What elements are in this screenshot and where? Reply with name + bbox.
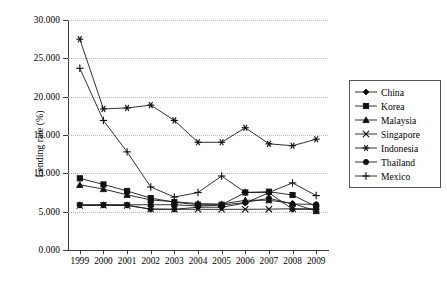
y-axis-tick-label: 15.000 (34, 130, 60, 140)
x-axis-tick (316, 250, 317, 254)
legend-item-thailand[interactable]: Thailand (354, 155, 435, 169)
circle-marker-icon (243, 200, 248, 205)
series-mexico (76, 65, 320, 201)
y-axis-tick-label: 30.000 (34, 15, 60, 25)
diamond-marker-icon (363, 89, 369, 95)
plot-area: 0.0005.00010.00015.00020.00025.00030.000… (68, 20, 328, 250)
x-axis-tick-label: 2001 (118, 256, 137, 266)
circle-marker-icon (363, 159, 368, 164)
series-layer (68, 20, 328, 250)
legend-item-korea[interactable]: Korea (354, 99, 435, 113)
x-axis-tick (151, 250, 152, 254)
plus-marker-icon (76, 65, 83, 72)
x-axis-tick-label: 2009 (307, 256, 326, 266)
y-axis-tick-label: 5.000 (39, 207, 60, 217)
plus-marker-icon (354, 169, 378, 183)
asterisk-marker-icon (354, 141, 378, 155)
x-axis-tick-label: 2006 (236, 256, 255, 266)
plus-marker-icon (147, 183, 154, 190)
x-axis-tick-label: 2003 (165, 256, 184, 266)
asterisk-marker-icon (363, 145, 370, 151)
asterisk-marker-icon (289, 143, 296, 149)
circle-marker-icon (172, 202, 177, 207)
y-axis-tick-label: 25.000 (34, 53, 60, 63)
x-marker-icon (354, 127, 378, 141)
plus-marker-icon (362, 172, 369, 179)
square-marker-icon (77, 176, 82, 181)
circle-marker-icon (77, 202, 82, 207)
y-axis-tick-label: 20.000 (34, 92, 60, 102)
diamond-marker-icon (354, 85, 378, 99)
asterisk-marker-icon (100, 106, 107, 112)
y-axis-title: Lending rate (%) (34, 110, 45, 177)
legend-item-mexico[interactable]: Mexico (354, 169, 435, 183)
x-axis-tick-label: 2002 (141, 256, 160, 266)
circle-marker-icon (101, 202, 106, 207)
x-axis-tick (222, 250, 223, 254)
x-axis-tick (174, 250, 175, 254)
circle-marker-icon (266, 196, 271, 201)
legend-label: China (378, 87, 404, 98)
asterisk-marker-icon (313, 136, 320, 142)
triangle-marker-icon (77, 182, 83, 188)
x-axis-tick-label: 2005 (212, 256, 231, 266)
asterisk-marker-icon (124, 105, 131, 111)
y-axis-tick (63, 250, 68, 251)
legend-label: Thailand (378, 157, 415, 168)
legend-item-china[interactable]: China (354, 85, 435, 99)
legend-label: Mexico (378, 171, 410, 182)
circle-marker-icon (290, 201, 295, 206)
y-axis-tick-label: 0.000 (39, 245, 60, 255)
plus-marker-icon (194, 189, 201, 196)
x-axis-tick-label: 2004 (189, 256, 208, 266)
x-axis-tick (103, 250, 104, 254)
legend-item-singapore[interactable]: Singapore (354, 127, 435, 141)
series-indonesia (76, 36, 319, 149)
x-axis-tick (80, 250, 81, 254)
circle-marker-icon (219, 203, 224, 208)
circle-marker-icon (354, 155, 378, 169)
legend-label: Korea (378, 101, 404, 112)
square-marker-icon (290, 192, 295, 197)
asterisk-marker-icon (218, 139, 225, 145)
chart-figure: Lending rate (%) 0.0005.00010.00015.0002… (0, 0, 447, 287)
circle-marker-icon (148, 202, 153, 207)
square-marker-icon (363, 103, 368, 108)
plus-marker-icon (123, 148, 130, 155)
x-axis-tick (245, 250, 246, 254)
x-axis-tick (269, 250, 270, 254)
legend-item-indonesia[interactable]: Indonesia (354, 141, 435, 155)
y-axis-tick-label: 10.000 (34, 168, 60, 178)
chart-legend: ChinaKoreaMalaysiaSingaporeIndonesiaThai… (349, 80, 441, 188)
circle-marker-icon (195, 203, 200, 208)
x-axis-tick (293, 250, 294, 254)
x-axis-tick (198, 250, 199, 254)
legend-label: Indonesia (378, 143, 418, 154)
x-axis-tick (127, 250, 128, 254)
legend-label: Singapore (378, 129, 420, 140)
asterisk-marker-icon (76, 36, 83, 42)
triangle-marker-icon (354, 113, 378, 127)
x-axis-tick-label: 2008 (283, 256, 302, 266)
circle-marker-icon (314, 202, 319, 207)
x-axis-tick-label: 2007 (260, 256, 279, 266)
plus-marker-icon (100, 117, 107, 124)
plus-marker-icon (218, 172, 225, 179)
x-axis-tick-label: 2000 (94, 256, 113, 266)
legend-label: Malaysia (378, 115, 416, 126)
x-axis-tick-label: 1999 (71, 256, 90, 266)
square-marker-icon (354, 99, 378, 113)
legend-item-malaysia[interactable]: Malaysia (354, 113, 435, 127)
plus-marker-icon (289, 179, 296, 186)
plus-marker-icon (312, 192, 319, 199)
circle-marker-icon (124, 202, 129, 207)
